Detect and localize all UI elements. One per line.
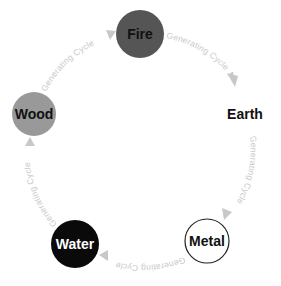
nodes: Fire Earth Metal Water Wood xyxy=(12,10,269,268)
node-label-fire: Fire xyxy=(127,26,153,42)
node-label-metal: Metal xyxy=(189,233,225,249)
edge-fire-earth: Generating Cycle xyxy=(166,30,238,87)
node-water: Water xyxy=(51,220,99,268)
node-label-wood: Wood xyxy=(15,106,54,122)
node-label-water: Water xyxy=(56,236,95,252)
edge-earth-metal: Generating Cycle xyxy=(222,135,259,220)
node-label-earth: Earth xyxy=(227,106,263,122)
arrowhead-icon xyxy=(227,73,238,87)
arrowhead-icon xyxy=(222,208,232,220)
edge-label-metal-water: Generating Cycle xyxy=(114,255,187,273)
edge-label-earth-metal: Generating Cycle xyxy=(235,135,259,206)
arrowhead-icon xyxy=(99,250,108,261)
edge-water-wood: Generating Cycle xyxy=(22,137,59,229)
node-wood: Wood xyxy=(12,92,56,136)
arrowhead-icon xyxy=(25,137,35,146)
edge-metal-water: Generating Cycle xyxy=(99,250,187,273)
node-fire: Fire xyxy=(116,10,164,58)
node-metal: Metal xyxy=(185,219,229,263)
edge-label-water-wood: Generating Cycle xyxy=(22,162,59,230)
edge-label-wood-fire: Generating Cycle xyxy=(39,38,96,93)
edge-label-fire-earth: Generating Cycle xyxy=(166,30,232,72)
five-elements-cycle-diagram: Generating Cycle Generating Cycle Genera… xyxy=(0,0,281,286)
node-earth: Earth xyxy=(221,90,269,138)
edge-wood-fire: Generating Cycle xyxy=(39,30,116,93)
arrowhead-icon xyxy=(106,30,116,40)
